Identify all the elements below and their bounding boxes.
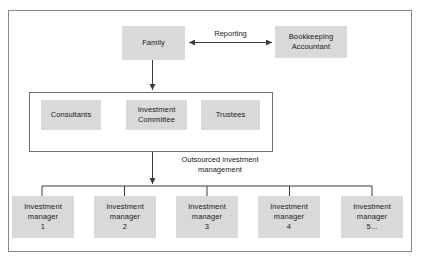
manager-1-line3: 1 — [41, 222, 45, 232]
node-bookkeeping-line1: Bookkeeping — [289, 32, 333, 42]
node-investment-manager-4[interactable]: Investment manager 4 — [258, 196, 320, 238]
outsourced-management-label: Outsourced investment management — [160, 155, 280, 175]
node-investment-committee-line1: Investment — [138, 105, 176, 115]
outsourced-label-line2: management — [198, 165, 242, 174]
manager-4-line1: Investment — [270, 202, 308, 212]
node-family-label: Family — [142, 38, 165, 48]
manager-1-line2: manager — [28, 212, 58, 222]
node-bookkeeping-accountant[interactable]: Bookkeeping Accountant — [275, 26, 347, 58]
node-investment-manager-1[interactable]: Investment manager 1 — [12, 196, 74, 238]
manager-1-line1: Investment — [24, 202, 62, 212]
node-investment-manager-2[interactable]: Investment manager 2 — [94, 196, 156, 238]
node-consultants[interactable]: Consultants — [41, 100, 101, 130]
manager-2-line1: Investment — [106, 202, 144, 212]
node-investment-committee-line2: Committee — [138, 115, 175, 125]
manager-5-line3: 5... — [367, 222, 378, 232]
manager-4-line2: manager — [274, 212, 304, 222]
reporting-label: Reporting — [188, 29, 273, 39]
outsourced-label-line1: Outsourced investment — [181, 155, 258, 164]
manager-2-line2: manager — [110, 212, 140, 222]
manager-4-line3: 4 — [287, 222, 291, 232]
node-investment-manager-5[interactable]: Investment manager 5... — [341, 196, 403, 238]
manager-3-line3: 3 — [205, 222, 209, 232]
node-family[interactable]: Family — [122, 26, 185, 60]
manager-3-line2: manager — [192, 212, 222, 222]
node-trustees-label: Trustees — [216, 110, 246, 120]
org-diagram: Family Bookkeeping Accountant Reporting … — [0, 0, 424, 262]
manager-2-line3: 2 — [123, 222, 127, 232]
manager-5-line2: manager — [357, 212, 387, 222]
node-investment-manager-3[interactable]: Investment manager 3 — [176, 196, 238, 238]
node-trustees[interactable]: Trustees — [201, 100, 260, 130]
manager-3-line1: Investment — [188, 202, 226, 212]
manager-5-line1: Investment — [353, 202, 391, 212]
node-consultants-label: Consultants — [51, 110, 92, 120]
node-bookkeeping-line2: Accountant — [292, 42, 331, 52]
node-investment-committee[interactable]: Investment Committee — [126, 100, 187, 130]
